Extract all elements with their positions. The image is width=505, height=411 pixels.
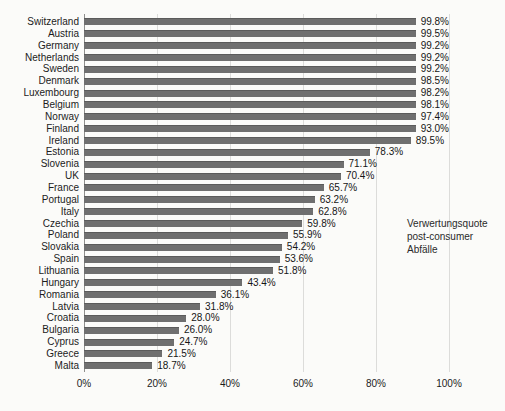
bar-track: 55.9% [84,230,449,240]
value-label: 78.3% [375,147,403,157]
category-label: Poland [0,230,84,240]
bar-row: UK70.4% [0,170,505,182]
value-label: 98.2% [421,88,449,98]
bar [84,90,416,97]
bar-track: 26.0% [84,325,449,335]
bar [84,66,416,73]
bar-row: Cyprus24.7% [0,336,505,348]
bar [84,78,416,85]
x-tick-label: 20% [147,378,167,389]
bar [84,42,416,49]
category-label: Norway [0,112,84,122]
value-label: 24.7% [179,337,207,347]
category-label: Croatia [0,313,84,323]
bar-track: 24.7% [84,337,449,347]
category-label: Greece [0,349,84,359]
bar-row: Hungary43.4% [0,277,505,289]
category-label: Romania [0,290,84,300]
bar-track: 31.8% [84,302,449,312]
value-label: 26.0% [184,325,212,335]
bar-track: 98.1% [84,100,449,110]
annotation-line-3: Abfälle [407,243,488,256]
bar-row: Netherlands99.2% [0,52,505,64]
category-label: Slovenia [0,159,84,169]
x-tick-label: 100% [436,378,462,389]
bar [84,125,416,132]
bar-row: Bulgaria26.0% [0,324,505,336]
bar [84,161,344,168]
bar-chart: Switzerland99.8%Austria99.5%Germany99.2%… [0,0,505,411]
x-tick-label: 40% [220,378,240,389]
bar [84,30,416,37]
bar-row: Croatia28.0% [0,312,505,324]
x-axis: 0%20%40%60%80%100% [0,378,505,392]
bar-row: Austria99.5% [0,28,505,40]
category-label: Latvia [0,302,84,312]
annotation-line-2: post-consumer [407,230,488,243]
value-label: 54.2% [287,242,315,252]
bar-track: 63.2% [84,195,449,205]
bar [84,327,179,334]
value-label: 89.5% [416,136,444,146]
bar-track: 71.1% [84,159,449,169]
bar-track: 51.8% [84,266,449,276]
value-label: 63.2% [320,195,348,205]
bar [84,291,216,298]
value-label: 99.2% [421,64,449,74]
category-label: Estonia [0,147,84,157]
value-label: 99.2% [421,41,449,51]
bar-track: 43.4% [84,278,449,288]
bar [84,113,416,120]
category-label: Italy [0,207,84,217]
category-label: Malta [0,361,84,371]
value-label: 18.7% [157,361,185,371]
bar-row: Greece21.5% [0,348,505,360]
bar-track: 99.2% [84,53,449,63]
value-label: 31.8% [205,302,233,312]
bar [84,279,242,286]
value-label: 71.1% [349,159,377,169]
bar [84,173,341,180]
category-label: UK [0,171,84,181]
value-label: 62.8% [318,207,346,217]
category-label: France [0,183,84,193]
bar-row: Sweden99.2% [0,63,505,75]
bar [84,350,162,357]
bar-track: 53.6% [84,254,449,264]
bar-row: Switzerland99.8% [0,16,505,28]
x-tick-label: 80% [366,378,386,389]
bar [84,220,302,227]
value-label: 65.7% [329,183,357,193]
bar [84,149,370,156]
bar-track: 36.1% [84,290,449,300]
category-label: Denmark [0,76,84,86]
value-label: 97.4% [421,112,449,122]
bar [84,137,411,144]
category-label: Belgium [0,100,84,110]
value-label: 51.8% [278,266,306,276]
category-label: Sweden [0,64,84,74]
bar [84,267,273,274]
value-label: 59.8% [307,219,335,229]
category-label: Switzerland [0,17,84,27]
bar [84,339,174,346]
bar [84,196,315,203]
bar [84,232,288,239]
bar-row: Luxembourg98.2% [0,87,505,99]
bar-row: Ireland89.5% [0,135,505,147]
bar-row: Norway97.4% [0,111,505,123]
bar-track: 21.5% [84,349,449,359]
bar-track: 89.5% [84,136,449,146]
bar-row: Germany99.2% [0,40,505,52]
bar [84,244,282,251]
value-label: 28.0% [191,313,219,323]
category-label: Luxembourg [0,88,84,98]
bar [84,54,416,61]
bar [84,303,200,310]
bar-row: Malta18.7% [0,360,505,372]
bar [84,18,416,25]
value-label: 70.4% [346,171,374,181]
value-label: 53.6% [285,254,313,264]
bar-track: 97.4% [84,112,449,122]
bar-track: 78.3% [84,147,449,157]
